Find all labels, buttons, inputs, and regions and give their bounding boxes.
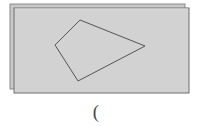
figure-root: ( [0,0,199,127]
figure-caption: ( [84,100,108,124]
front-plane-rect [14,8,189,93]
